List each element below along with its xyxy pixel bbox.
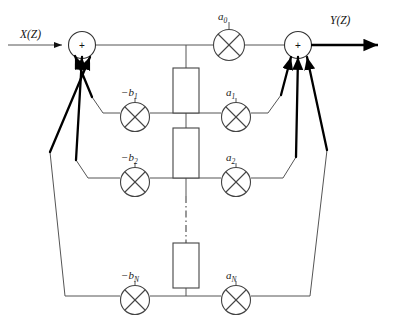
a1-forward-diagonal [268,95,281,113]
coefficient-label-bn: −bN [121,269,140,284]
coefficient-label-b2: −b2 [121,151,138,166]
multiplier-b1 [121,103,150,132]
coefficient-label-an: aN [226,269,238,284]
feedforward-arrows [281,57,327,157]
feedforward-arrow-a2 [296,57,298,157]
delay-block-2 [173,128,199,178]
thin-signal-lines [8,22,327,296]
a2-forward-diagonal [283,157,296,178]
feedforward-arrow-an [307,57,327,150]
bn-base: −b [121,269,134,281]
multiplier-a1 [222,103,251,132]
coefficient-label-b1: −b1 [121,86,138,101]
an-sub: N [231,275,238,284]
bn-sub: N [133,275,140,284]
coefficient-label-a2: a2 [226,151,236,166]
delay-blocks [173,68,199,288]
coefficient-label-a1: a1 [226,86,235,101]
input-junction-sign: + [79,40,85,51]
multiplier-a2 [222,168,251,197]
multiplier-b2 [121,168,150,197]
feedforward-arrow-a1 [281,57,291,95]
multiplier-an [222,286,251,315]
b2-sub: 2 [134,157,138,166]
b1-base: −b [121,86,134,98]
a0-sub: 0 [224,16,228,25]
an-forward-diagonal [310,150,327,296]
b2-base: −b [121,151,134,163]
b1-feedback-diagonal [92,97,103,113]
a1-sub: 1 [232,92,236,101]
signal-flow-diagram: + + [0,0,396,329]
multiplier-a0 [214,30,245,61]
output-label: Y(Z) [330,14,351,27]
b1-sub: 1 [134,92,138,101]
delay-block-1 [173,68,199,113]
coefficient-label-a0: a0 [218,10,228,25]
feedback-arrow-bn [50,57,90,152]
b2-feedback-diagonal [76,160,88,178]
input-label: X(Z) [19,28,41,41]
bn-feedback-diagonal [50,152,65,296]
feedback-arrow-b2 [76,57,82,160]
feedback-arrows [50,56,92,160]
feedback-arrow-b1 [75,56,92,97]
a2-sub: 2 [232,157,236,166]
output-junction-sign: + [295,40,301,51]
delay-block-n [173,243,199,288]
multiplier-bn [121,286,150,315]
